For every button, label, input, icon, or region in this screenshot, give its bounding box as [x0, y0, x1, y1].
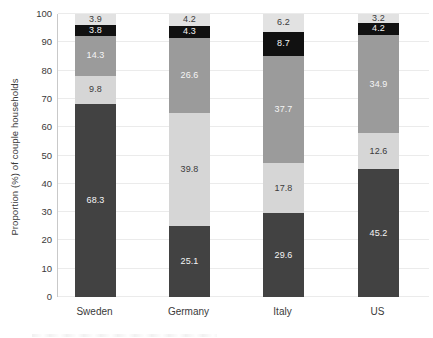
- segment-value-label: 25.1: [181, 257, 199, 266]
- segment-value-label: 6.2: [277, 18, 290, 27]
- bottom-dark-gray-segment: 68.3: [75, 104, 116, 297]
- medium-gray-segment: 37.7: [263, 56, 304, 163]
- y-tick-label: 60: [20, 121, 52, 133]
- segment-value-label: 26.6: [181, 71, 199, 80]
- light-gray-segment: 17.8: [263, 163, 304, 213]
- light-gray-segment: 12.6: [358, 133, 399, 169]
- top-lightest-gray-segment: 6.2: [263, 14, 304, 32]
- segment-value-label: 4.3: [183, 27, 196, 36]
- segment-value-label: 14.3: [87, 51, 105, 60]
- bar-italy: 29.617.837.78.76.2: [263, 14, 304, 297]
- top-lightest-gray-segment: 4.2: [169, 14, 210, 26]
- x-category-label-italy: Italy: [238, 306, 328, 317]
- segment-value-label: 3.8: [89, 26, 102, 35]
- black-segment: 3.8: [75, 25, 116, 36]
- segment-value-label: 4.2: [372, 24, 385, 33]
- y-tick-label: 30: [20, 206, 52, 218]
- y-tick-label: 90: [20, 36, 52, 48]
- bottom-dark-gray-segment: 29.6: [263, 213, 304, 297]
- light-gray-segment: 9.8: [75, 76, 116, 104]
- segment-value-label: 34.9: [370, 80, 388, 89]
- black-segment: 8.7: [263, 32, 304, 57]
- bar-us: 45.212.634.94.23.2: [358, 14, 399, 297]
- segment-value-label: 37.7: [275, 105, 293, 114]
- segment-value-label: 29.6: [275, 251, 293, 260]
- segment-value-label: 39.8: [181, 165, 199, 174]
- medium-gray-segment: 14.3: [75, 36, 116, 76]
- segment-value-label: 12.6: [370, 147, 388, 156]
- medium-gray-segment: 34.9: [358, 35, 399, 134]
- y-tick-label: 100: [20, 8, 52, 20]
- segment-value-label: 8.7: [277, 39, 290, 48]
- bar-germany: 25.139.826.64.34.2: [169, 14, 210, 297]
- bar-sweden: 68.39.814.33.83.9: [75, 14, 116, 297]
- segment-value-label: 3.9: [89, 15, 102, 24]
- medium-gray-segment: 26.6: [169, 38, 210, 113]
- bottom-dark-gray-segment: 45.2: [358, 169, 399, 297]
- x-category-label-germany: Germany: [144, 306, 234, 317]
- segment-value-label: 9.8: [89, 85, 102, 94]
- y-tick-label: 40: [20, 178, 52, 190]
- segment-value-label: 4.2: [183, 15, 196, 24]
- light-gray-segment: 39.8: [169, 113, 210, 226]
- top-lightest-gray-segment: 3.9: [75, 14, 116, 25]
- y-tick-label: 10: [20, 263, 52, 275]
- y-tick-label: 70: [20, 93, 52, 105]
- y-tick-label: 0: [20, 291, 52, 303]
- bottom-dark-gray-segment: 25.1: [169, 226, 210, 297]
- y-tick-label: 20: [20, 234, 52, 246]
- segment-value-label: 3.2: [372, 14, 385, 23]
- cropped-caption-artifact: [32, 334, 217, 337]
- y-tick-label: 50: [20, 150, 52, 162]
- plot-area: 68.39.814.33.83.925.139.826.64.34.229.61…: [57, 14, 429, 297]
- segment-value-label: 45.2: [370, 229, 388, 238]
- x-category-label-us: US: [333, 306, 423, 317]
- black-segment: 4.3: [169, 26, 210, 38]
- black-segment: 4.2: [358, 23, 399, 35]
- segment-value-label: 68.3: [87, 196, 105, 205]
- x-category-label-sweden: Sweden: [50, 306, 140, 317]
- y-tick-label: 80: [20, 65, 52, 77]
- stacked-bar-chart-figure: Proportion (%) of couple households 68.3…: [0, 0, 433, 338]
- segment-value-label: 17.8: [275, 184, 293, 193]
- top-lightest-gray-segment: 3.2: [358, 14, 399, 23]
